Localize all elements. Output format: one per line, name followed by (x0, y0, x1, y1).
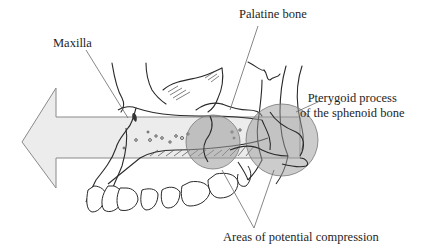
leader-compression-2 (254, 170, 274, 228)
label-palatine-bone: Palatine bone (239, 7, 307, 22)
label-compression-areas: Areas of potential compression (223, 230, 379, 245)
anatomy-diagram: Maxilla Palatine bone Pterygoid process … (0, 0, 447, 249)
leader-maxilla (86, 50, 128, 118)
label-pterygoid-line1: Pterygoid process (300, 91, 405, 106)
leader-palatine (230, 26, 258, 110)
shading-hatch (168, 72, 219, 100)
label-maxilla: Maxilla (53, 36, 92, 51)
teeth (87, 166, 251, 212)
label-pterygoid-line2: of the sphenoid bone (300, 106, 405, 121)
compression-zone-anterior (186, 115, 240, 169)
label-pterygoid-process: Pterygoid process of the sphenoid bone (300, 91, 405, 121)
